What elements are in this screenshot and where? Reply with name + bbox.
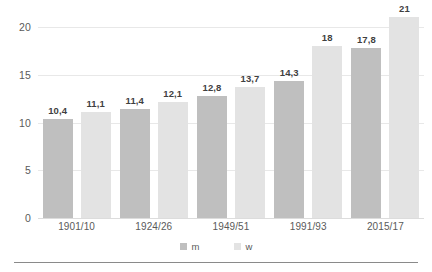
bar-m-1991/93[interactable]: 14,3 — [274, 61, 304, 218]
bar-rect — [158, 102, 188, 218]
bar-value-label: 13,7 — [241, 73, 260, 84]
bar-w-2015/17[interactable]: 21 — [389, 0, 419, 218]
bar-rect — [81, 112, 111, 218]
bar-value-label: 18 — [322, 32, 333, 43]
legend-item-m[interactable]: m — [180, 241, 200, 252]
bar-w-1901/10[interactable]: 11,1 — [81, 92, 111, 218]
bar-rect — [351, 48, 381, 218]
bar-w-1991/93[interactable]: 18 — [312, 26, 342, 218]
bar-rect — [197, 96, 227, 218]
legend-label: m — [192, 241, 200, 252]
bar-m-1924/26[interactable]: 11,4 — [120, 89, 150, 218]
bar-rect — [43, 119, 73, 218]
bar-m-2015/17[interactable]: 17,8 — [351, 28, 381, 218]
bar-value-label: 21 — [399, 3, 410, 14]
bar-rect — [235, 87, 265, 218]
bar-rect — [389, 17, 419, 218]
legend-label: w — [246, 241, 253, 252]
y-axis: 20151050 — [0, 0, 38, 272]
bar-w-1924/26[interactable]: 12,1 — [158, 82, 188, 218]
x-tick-label: 1949/51 — [213, 221, 250, 232]
bar-value-label: 12,1 — [163, 88, 182, 99]
bar-m-1901/10[interactable]: 10,4 — [43, 99, 73, 218]
bar-value-label: 11,4 — [126, 95, 144, 106]
bar-value-label: 10,4 — [48, 105, 67, 116]
bar-value-label: 17,8 — [357, 34, 376, 45]
bar-value-label: 12,8 — [203, 82, 222, 93]
legend-item-w[interactable]: w — [234, 241, 253, 252]
bar-rect — [120, 109, 150, 218]
bar-value-label: 11,1 — [86, 98, 104, 109]
y-tick-label: 20 — [19, 21, 31, 33]
bar-rect — [274, 81, 304, 218]
legend-swatch-icon — [180, 243, 187, 250]
bar-value-label: 14,3 — [280, 67, 299, 78]
y-tick-label: 10 — [19, 117, 31, 129]
bottom-divider — [14, 262, 418, 263]
y-tick-label: 0 — [25, 212, 31, 224]
gridline-0 — [38, 218, 424, 219]
bar-w-1949/51[interactable]: 13,7 — [235, 67, 265, 218]
legend-swatch-icon — [234, 243, 241, 250]
x-tick-label: 1924/26 — [135, 221, 172, 232]
x-tick-label: 2015/17 — [367, 221, 404, 232]
bar-m-1949/51[interactable]: 12,8 — [197, 76, 227, 218]
y-tick-label: 15 — [19, 69, 31, 81]
bar-chart-figure: 20151050 10,411,111,412,112,813,714,3181… — [0, 0, 432, 272]
x-tick-label: 1901/10 — [58, 221, 95, 232]
chart-legend: mw — [0, 241, 432, 252]
x-tick-label: 1991/93 — [290, 221, 327, 232]
bar-rect — [312, 46, 342, 218]
x-axis: 1901/101924/261949/511991/932015/17 — [38, 221, 424, 239]
bars-layer: 10,411,111,412,112,813,714,31817,821 — [38, 0, 424, 218]
y-tick-label: 5 — [25, 164, 31, 176]
